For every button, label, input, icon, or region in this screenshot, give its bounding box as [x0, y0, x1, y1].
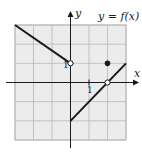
y-tick-label: 1 [63, 60, 69, 70]
function-graph: y = f(x) y x 1 1 [0, 0, 142, 155]
open-point [105, 80, 110, 85]
y-axis-label: y [74, 7, 82, 20]
x-tick-label: 1 [87, 85, 93, 95]
x-axis-arrow-icon [133, 80, 139, 86]
y-axis-arrow-icon [68, 11, 74, 17]
graph-title: y = f(x) [97, 10, 139, 23]
closed-point [105, 61, 111, 67]
x-axis-label: x [134, 67, 141, 80]
